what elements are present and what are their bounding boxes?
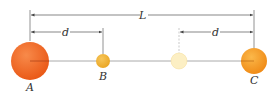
label-B: B (98, 70, 107, 83)
d-left-label: d (62, 26, 69, 39)
diagram: L d d A B C (0, 0, 273, 96)
label-A: A (25, 81, 34, 94)
sphere-B (96, 54, 110, 68)
L-label: L (138, 9, 146, 22)
sphere-faded (171, 53, 187, 69)
d-right-label: d (212, 26, 219, 39)
label-C: C (250, 74, 259, 87)
